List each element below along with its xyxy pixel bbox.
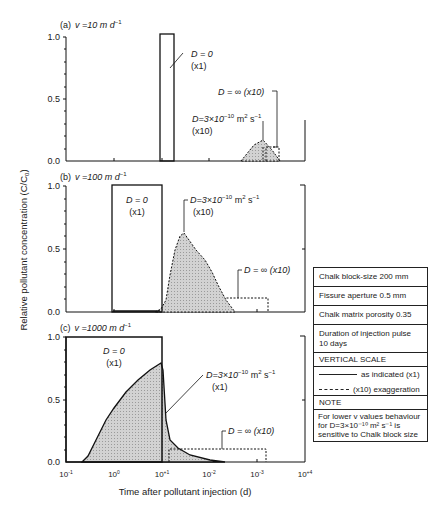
param-block-size: Chalk block-size 200 mm — [314, 268, 427, 287]
svg-text:D=3×10−10 m2 s−1: D=3×10−10 m2 s−1 — [192, 113, 262, 124]
svg-text:(x1): (x1) — [212, 382, 228, 392]
parameters-box: Chalk block-size 200 mm Fissure aperture… — [313, 267, 428, 354]
curve-d3-c — [82, 363, 225, 462]
svg-text:0.0: 0.0 — [47, 457, 60, 467]
svg-text:(x1): (x1) — [191, 61, 207, 71]
param-porosity: Chalk matrix porosity 0.35 — [314, 306, 427, 325]
svg-text:10-1: 10-1 — [59, 469, 73, 479]
svg-text:10-3: 10-3 — [250, 469, 264, 479]
solid-line-sample — [319, 374, 357, 375]
panel-b: (b)v =100 m d−1 1.0 0.5 0.0 D = 0 (x1) D… — [47, 171, 305, 317]
svg-text:1.0: 1.0 — [47, 181, 60, 191]
legend-solid: as indicated (x1) — [314, 367, 427, 382]
svg-text:D = 0: D = 0 — [126, 195, 148, 205]
param-fissure-aperture: Fissure aperture 0.5 mm — [314, 287, 427, 306]
x-axis-label: Time after pollutant injection (d) — [119, 486, 252, 497]
svg-text:D=3×10−10 m2 s−1: D=3×10−10 m2 s−1 — [190, 194, 260, 205]
y-tick-label: 0.0 — [47, 156, 60, 166]
curve-d3-b — [155, 233, 235, 312]
svg-text:D=3×10−10 m2 s−1: D=3×10−10 m2 s−1 — [206, 369, 276, 380]
panel-a: (a)v =10 m d−1 1.0 0.5 0.0 D = 0 (x1) D … — [47, 19, 305, 166]
svg-text:(x1): (x1) — [106, 358, 122, 368]
svg-text:D = ∞ (x10): D = ∞ (x10) — [218, 87, 264, 97]
pulse-d0-a — [160, 34, 174, 161]
svg-text:(x1): (x1) — [129, 207, 145, 217]
y-axis-label: Relative pollutant concentration (C/C0) — [18, 169, 30, 330]
note-box: NOTE For lower v values behaviour for D=… — [313, 395, 428, 442]
svg-text:0.5: 0.5 — [47, 395, 60, 405]
svg-text:1.0: 1.0 — [47, 332, 60, 342]
svg-text:D = 0: D = 0 — [103, 346, 125, 356]
y-tick-label: 1.0 — [47, 32, 60, 42]
x-axis-ticks: 10-1 100 10+1 10-2 10-3 10+4 — [59, 469, 312, 479]
svg-text:(x10): (x10) — [192, 126, 213, 136]
note-title: NOTE — [314, 396, 427, 410]
param-pulse-duration: Duration of injection pulse 10 days — [314, 325, 427, 353]
svg-text:D = ∞ (x10): D = ∞ (x10) — [228, 426, 274, 436]
svg-text:10+4: 10+4 — [298, 469, 313, 479]
curve-d3-a — [241, 140, 280, 161]
svg-text:(b)v =100 m d−1: (b)v =100 m d−1 — [60, 171, 127, 182]
svg-text:(c)v =1000 m d−1: (c)v =1000 m d−1 — [60, 322, 132, 333]
vertical-scale-title: VERTICAL SCALE — [314, 353, 427, 367]
vertical-scale-legend: VERTICAL SCALE as indicated (x1) (x10) e… — [313, 352, 428, 398]
svg-text:D = 0: D = 0 — [191, 49, 213, 59]
svg-text:(x10): (x10) — [193, 207, 214, 217]
svg-text:10-2: 10-2 — [202, 469, 216, 479]
panel-c: (c)v =1000 m d−1 1.0 0.5 0.0 D = 0 (x1) … — [47, 322, 305, 467]
panel-a-label: (a)v =10 m d−1 — [60, 19, 122, 30]
svg-text:10+1: 10+1 — [155, 469, 170, 479]
y-tick-label: 0.5 — [47, 94, 60, 104]
dashed-line-sample — [319, 389, 349, 390]
svg-text:D = ∞ (x10): D = ∞ (x10) — [244, 265, 290, 275]
svg-text:0.5: 0.5 — [47, 244, 60, 254]
svg-text:100: 100 — [108, 469, 120, 479]
svg-text:0.0: 0.0 — [47, 307, 60, 317]
note-text: For lower v values behaviour for D=3×10⁻… — [314, 410, 427, 441]
